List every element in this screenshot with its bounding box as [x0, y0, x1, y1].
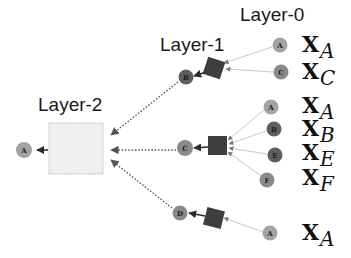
layer0-node-c-group1: C: [274, 65, 289, 80]
node-label: A: [267, 103, 274, 112]
layer0-node-f-group2: F: [260, 173, 275, 188]
layer-0-label: Layer-0: [240, 4, 304, 25]
node-label: B: [271, 125, 277, 134]
layer1-node-d: D: [173, 206, 188, 221]
node-label: B: [183, 73, 189, 82]
layer0-node-b-group2: B: [267, 122, 282, 137]
layer0-node-a-group1: A: [273, 38, 288, 53]
layer1-node-b: B: [179, 70, 194, 85]
node-label: A: [266, 229, 273, 238]
node-label: D: [177, 209, 183, 218]
feature-label-xa-3: XA: [302, 219, 335, 251]
layer0-edges: [224, 47, 273, 232]
aggregator-square-c: [208, 136, 227, 155]
gnn-layer-diagram: Layer-0 Layer-1 Layer-2 A B: [0, 0, 351, 258]
node-label: C: [278, 68, 284, 77]
layer-2-box: [49, 123, 103, 174]
layer-2-label: Layer-2: [38, 94, 102, 115]
node-label: E: [272, 151, 277, 160]
aggregator-square-d: [203, 207, 225, 229]
node-label: A: [276, 41, 283, 50]
layer1-node-c: C: [177, 140, 193, 156]
layer0-node-a-group3: A: [263, 226, 278, 241]
node-label: F: [265, 176, 270, 185]
layer0-node-e-group2: E: [268, 148, 283, 163]
node-label: A: [20, 146, 27, 155]
layer0-node-a-group2: A: [264, 100, 279, 115]
root-node-a: A: [16, 142, 32, 158]
node-label: C: [182, 144, 188, 153]
svg-text:XA: XA: [302, 219, 335, 251]
aggregator-square-b: [203, 57, 226, 80]
layer-1-label: Layer-1: [160, 34, 224, 55]
layer2-dotted-edges: [111, 82, 178, 208]
